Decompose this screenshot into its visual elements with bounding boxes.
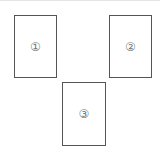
panel-2: ② bbox=[109, 15, 152, 78]
panel-1: ① bbox=[14, 15, 57, 78]
panel-3: ③ bbox=[62, 82, 106, 146]
panel-3-label: ③ bbox=[79, 108, 90, 120]
panel-2-label: ② bbox=[125, 41, 136, 53]
top-divider bbox=[0, 0, 160, 1]
panel-1-label: ① bbox=[30, 41, 41, 53]
